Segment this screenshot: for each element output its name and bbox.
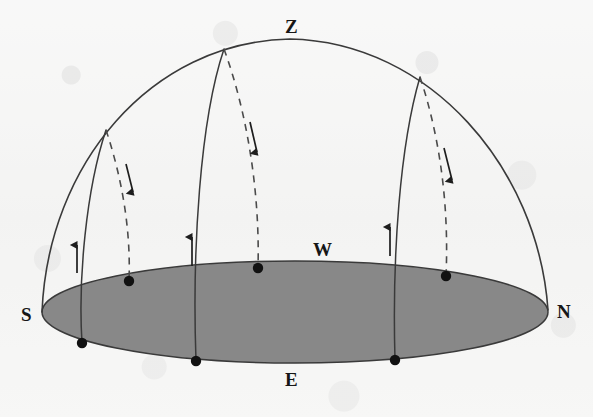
set-direction-arrow-left — [126, 164, 133, 192]
horizon-plane — [42, 261, 548, 363]
setting-arc-left — [106, 130, 129, 281]
set-direction-arrow-middle — [250, 122, 257, 152]
setting-arc-middle — [224, 49, 258, 268]
label-zenith: Z — [285, 17, 298, 36]
star-rise-point-middle — [191, 356, 201, 366]
star-set-point-middle — [253, 263, 263, 273]
star-set-point-right — [441, 271, 451, 281]
label-north: N — [557, 302, 571, 321]
setting-arc-right — [420, 77, 447, 276]
diagram-canvas: Z S N W E — [0, 0, 593, 417]
set-direction-arrow-right — [444, 148, 452, 180]
star-rise-point-right — [390, 355, 400, 365]
celestial-sphere-figure — [0, 0, 593, 417]
star-set-point-left — [124, 276, 134, 286]
star-rise-point-left — [77, 338, 87, 348]
label-south: S — [21, 305, 32, 324]
label-west: W — [313, 240, 333, 259]
label-east: E — [285, 370, 298, 389]
